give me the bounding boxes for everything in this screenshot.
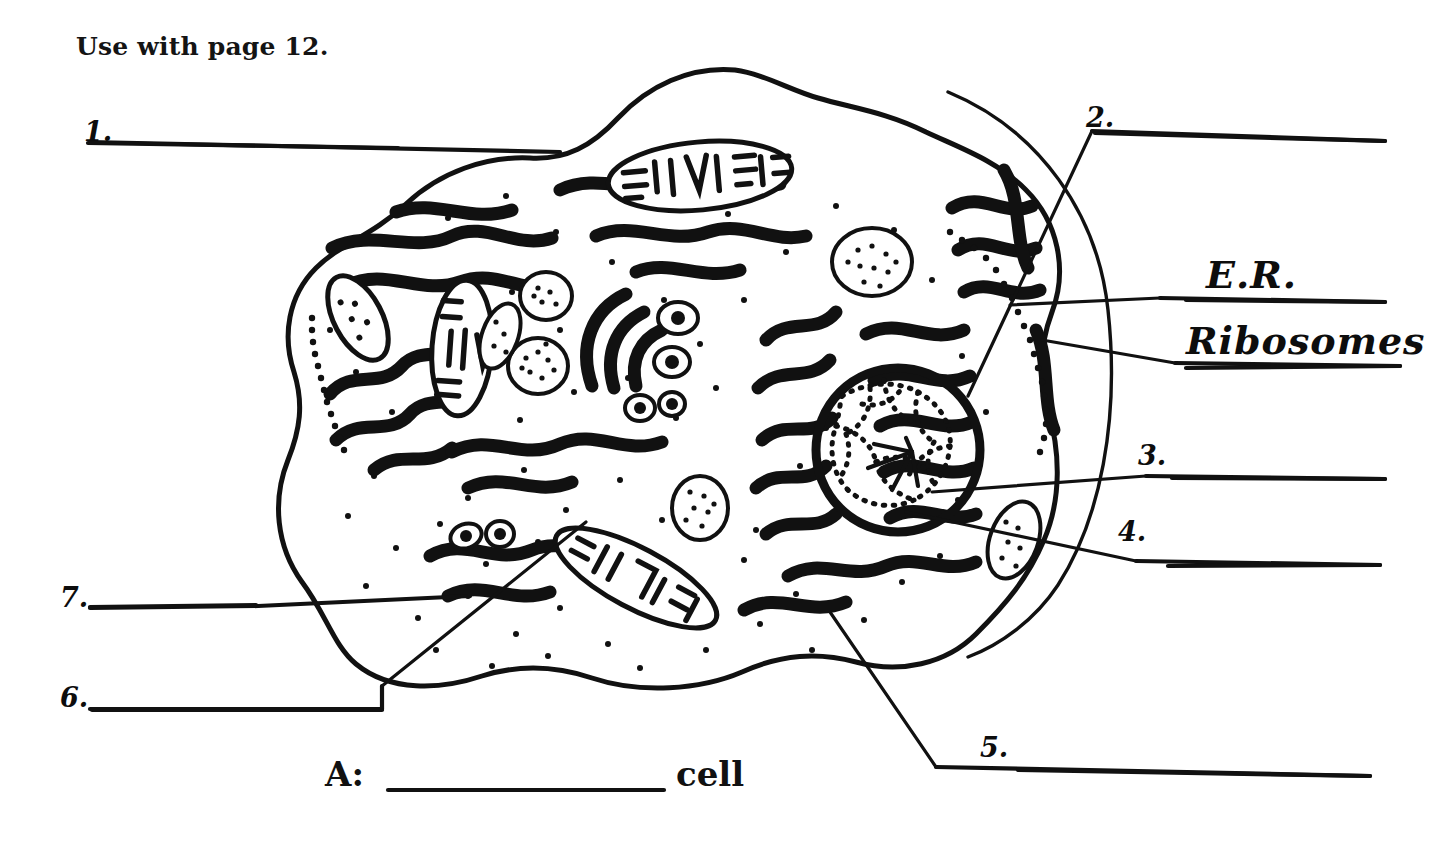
golgi-apparatus: [587, 294, 698, 421]
rule-5: [1018, 770, 1370, 776]
rule-7: [90, 605, 256, 607]
mitochondrion-top: [605, 134, 794, 218]
caption-suffix: cell: [676, 754, 744, 794]
label-number-6[interactable]: 6.: [60, 682, 88, 713]
label-answer-er[interactable]: E.R.: [1206, 252, 1297, 297]
label-number-5[interactable]: 5.: [980, 732, 1008, 763]
rule-er: [1186, 300, 1385, 302]
chromatin-network: [832, 380, 950, 505]
label-number-7[interactable]: 7.: [60, 582, 88, 613]
label-number-2[interactable]: 2.: [1086, 102, 1114, 133]
worksheet-page: Use with page 12.: [0, 0, 1455, 845]
rule-ribosomes: [1186, 366, 1400, 368]
label-number-1[interactable]: 1.: [84, 116, 112, 147]
leader-line-5: [830, 612, 1370, 776]
rule-3: [1172, 478, 1385, 479]
label-number-3[interactable]: 3.: [1138, 440, 1166, 471]
cell-diagram-svg: [0, 0, 1455, 845]
label-number-4[interactable]: 4.: [1118, 516, 1146, 547]
label-answer-ribosomes[interactable]: Ribosomes: [1186, 318, 1425, 363]
rule-4: [1168, 565, 1380, 566]
rule-1: [88, 143, 398, 148]
caption-prefix: A:: [325, 754, 364, 794]
